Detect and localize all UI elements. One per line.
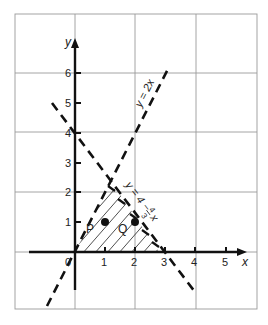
- point-p: [101, 218, 109, 226]
- y-tick-label: 3: [65, 157, 71, 169]
- x-axis-label: x: [241, 255, 249, 269]
- x-tick-label: 3: [161, 256, 167, 268]
- point-q: [131, 218, 139, 226]
- point-label-p: P: [86, 222, 94, 236]
- x-tick-label: 2: [131, 256, 137, 268]
- y-tick-label: 4: [65, 127, 71, 139]
- x-tick-label: 1: [101, 256, 107, 268]
- x-tick-label: 5: [222, 256, 228, 268]
- origin-label: 0: [65, 256, 71, 268]
- graph-figure: y x 0 1 2 3 4 5 1 2 3 4 5 6 y = 2x y = 4…: [0, 0, 268, 325]
- point-label-q: Q: [118, 222, 127, 236]
- x-axis: [29, 248, 247, 256]
- y-tick-label: 6: [65, 67, 71, 79]
- x-tick-label: 4: [191, 256, 197, 268]
- y-tick-label: 5: [65, 97, 71, 109]
- y-tick-label: 2: [65, 186, 71, 198]
- line-y-equals-4-minus-4-thirds-x: [52, 103, 195, 292]
- svg-text:3: 3: [139, 212, 149, 221]
- y-tick-label: 1: [65, 216, 71, 228]
- svg-text:y = 4 −: y = 4 −: [123, 178, 154, 213]
- y-axis-label: y: [64, 35, 72, 49]
